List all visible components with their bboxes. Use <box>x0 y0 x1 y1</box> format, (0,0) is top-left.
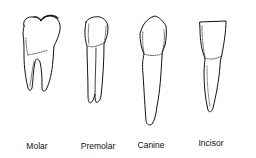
molar-label: Molar <box>26 141 47 151</box>
incisor-label: Incisor <box>198 138 223 148</box>
canine-label: Canine <box>138 140 165 150</box>
teeth-diagram <box>0 0 256 158</box>
canine-drawing <box>140 16 166 125</box>
molar-drawing <box>23 15 60 91</box>
premolar-drawing <box>85 17 108 103</box>
premolar-label: Premolar <box>81 141 115 151</box>
incisor-drawing <box>200 21 226 112</box>
